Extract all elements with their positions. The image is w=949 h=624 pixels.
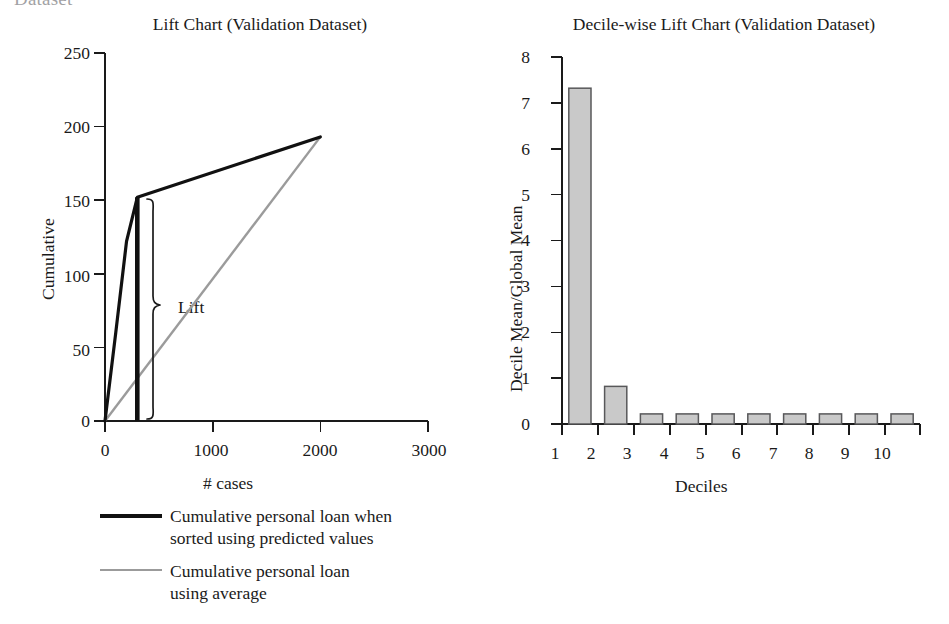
legend-item: Cumulative personal loan when sorted usi… <box>100 505 460 550</box>
legend-label-predicted: Cumulative personal loan when sorted usi… <box>162 505 392 550</box>
legend-line-predicted-icon <box>100 505 162 527</box>
decile-bar-group <box>569 88 913 424</box>
decile-bar <box>712 414 734 424</box>
decile-chart-plot <box>480 0 949 500</box>
decile-bar <box>784 414 806 424</box>
decile-bar <box>819 414 841 424</box>
decile-bar <box>748 414 770 424</box>
decile-bar <box>605 386 627 424</box>
decile-bar <box>855 414 877 424</box>
decile-chart-panel: Decile-wise Lift Chart (Validation Datas… <box>480 0 949 500</box>
lift-brace <box>147 199 160 419</box>
decile-bar <box>640 414 662 424</box>
figure-root: Dataset Lift Chart (Validation Dataset) … <box>0 0 949 624</box>
legend-line-average-icon <box>100 560 162 582</box>
lift-chart-plot <box>0 0 480 500</box>
decile-bar <box>569 88 591 424</box>
legend-item: Cumulative personal loan using average <box>100 560 460 605</box>
chart-legend: Cumulative personal loan when sorted usi… <box>100 505 460 605</box>
decile-bar <box>891 414 913 424</box>
legend-label-average: Cumulative personal loan using average <box>162 560 350 605</box>
lift-chart-panel: Lift Chart (Validation Dataset) Cumulati… <box>0 0 480 500</box>
decile-bar <box>676 414 698 424</box>
